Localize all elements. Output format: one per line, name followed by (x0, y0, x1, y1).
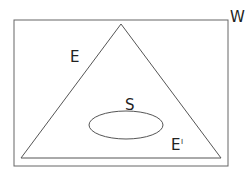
universe-label: W (230, 8, 245, 26)
event-triangle (21, 24, 221, 158)
subset-ellipse (89, 111, 163, 139)
ellipse-label: S (125, 96, 135, 114)
complement-mark: I (181, 138, 183, 146)
complement-label: E (171, 136, 180, 154)
triangle-label: E (70, 48, 79, 66)
universe-rectangle (14, 20, 228, 166)
venn-diagram: W E S E I (0, 0, 251, 177)
